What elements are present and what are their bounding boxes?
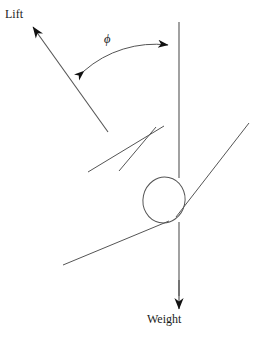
- rigging-line-upper-right: [176, 123, 249, 217]
- diagram-vector-layer: [0, 0, 269, 342]
- rigging-line-upper-left: [88, 126, 164, 172]
- force-diagram-canvas: Lift ϕ Weight: [0, 0, 269, 342]
- rigging-line-lower-left: [119, 127, 156, 171]
- phi-angle-arc: [84, 44, 168, 71]
- balloon-envelope-ellipse: [139, 173, 190, 227]
- rigging-line-basket-left: [63, 221, 169, 265]
- phi-angle-label: ϕ: [104, 33, 110, 46]
- lift-force-arrow: [33, 27, 108, 132]
- weight-label: Weight: [147, 313, 181, 325]
- lift-label: Lift: [5, 8, 23, 20]
